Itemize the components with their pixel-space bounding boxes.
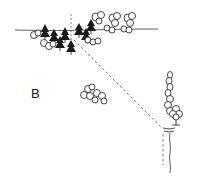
label-b: B — [31, 87, 40, 100]
shrub-group-center — [81, 84, 108, 104]
sight-line — [74, 40, 162, 128]
columnar-tree — [165, 72, 174, 115]
path-edge-line — [170, 133, 171, 173]
landscape-diagram — [0, 0, 198, 183]
path-entry-mark — [163, 128, 175, 132]
